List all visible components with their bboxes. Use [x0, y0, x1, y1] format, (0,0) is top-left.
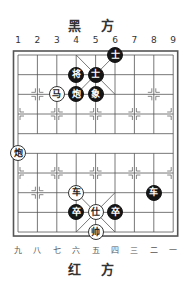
column-label: 七 [50, 244, 64, 255]
xiangqi-board [0, 0, 190, 285]
column-label: 四 [108, 244, 122, 255]
black-advisor-piece[interactable]: 士 [88, 67, 104, 83]
column-label: 二 [147, 244, 161, 255]
column-label: 八 [30, 244, 44, 255]
red-side-title: 红 方 [0, 259, 190, 278]
column-label: 三 [127, 244, 141, 255]
black-advisor-piece[interactable]: 士 [107, 47, 123, 63]
column-label: 六 [69, 244, 83, 255]
red-chariot-piece[interactable]: 车 [68, 185, 84, 201]
column-label: 一 [166, 244, 180, 255]
column-label: 五 [89, 244, 103, 255]
red-advisor-piece[interactable]: 仕 [88, 204, 104, 220]
black-elephant-piece[interactable]: 象 [88, 86, 104, 102]
red-general-piece[interactable]: 帅 [88, 224, 104, 240]
bottom-column-labels: 九八七六五四三二一 [0, 244, 190, 256]
column-label: 九 [11, 244, 25, 255]
black-chariot-piece[interactable]: 车 [146, 185, 162, 201]
black-general-piece[interactable]: 将 [68, 67, 84, 83]
